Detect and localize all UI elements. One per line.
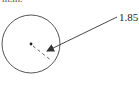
radius-dashed-line [33,46,52,61]
center-dot [30,43,33,46]
leader-arrow [47,17,117,51]
dimension-label: 1.85 mm [119,11,139,23]
